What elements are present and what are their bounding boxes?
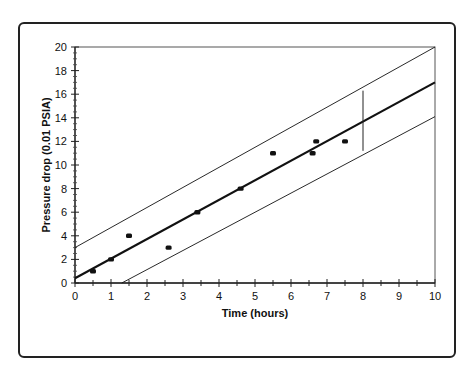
x-tick-label: 5 xyxy=(252,290,258,302)
x-tick-label: 4 xyxy=(216,290,222,302)
y-tick-label: 14 xyxy=(55,112,67,124)
x-tick-label: 8 xyxy=(360,290,366,302)
plot-area: 01234567891002468101214161820 xyxy=(55,41,441,302)
y-tick-label: 8 xyxy=(61,183,67,195)
data-point xyxy=(238,186,244,190)
lower-bound-line xyxy=(122,117,435,283)
y-tick-label: 2 xyxy=(61,253,67,265)
x-tick-label: 2 xyxy=(144,290,150,302)
data-point xyxy=(90,269,96,273)
x-tick-label: 10 xyxy=(429,290,441,302)
y-tick-label: 4 xyxy=(61,230,67,242)
data-point xyxy=(313,139,319,143)
y-tick-label: 6 xyxy=(61,206,67,218)
y-axis-title: Pressure drop (0.01 PSIA) xyxy=(40,97,52,232)
upper-bound-line xyxy=(75,47,435,248)
data-point xyxy=(108,257,114,261)
x-tick-label: 9 xyxy=(396,290,402,302)
x-tick-label: 6 xyxy=(288,290,294,302)
x-tick-label: 0 xyxy=(72,290,78,302)
data-point xyxy=(194,210,200,214)
data-point xyxy=(166,245,172,249)
plot-border xyxy=(75,47,435,283)
data-point xyxy=(342,139,348,143)
data-point xyxy=(310,151,316,155)
regression-line xyxy=(75,82,435,278)
x-tick-label: 1 xyxy=(108,290,114,302)
x-tick-label: 3 xyxy=(180,290,186,302)
y-tick-label: 16 xyxy=(55,88,67,100)
y-tick-label: 10 xyxy=(55,159,67,171)
chart: 01234567891002468101214161820 Time (hour… xyxy=(0,0,476,377)
y-tick-label: 0 xyxy=(61,277,67,289)
x-axis-title: Time (hours) xyxy=(222,307,289,319)
y-tick-label: 12 xyxy=(55,135,67,147)
x-tick-label: 7 xyxy=(324,290,330,302)
y-tick-label: 20 xyxy=(55,41,67,53)
data-point xyxy=(126,234,132,238)
data-point xyxy=(270,151,276,155)
y-tick-label: 18 xyxy=(55,65,67,77)
